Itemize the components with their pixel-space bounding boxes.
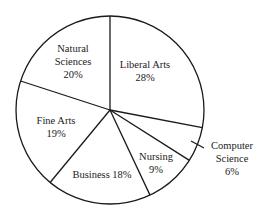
label-computer-science-2: Science <box>216 153 249 164</box>
pie-chart: Liberal Arts 28% Natural Sciences 20% Fi… <box>0 0 259 220</box>
label-natural-sciences-1: Natural <box>57 43 89 54</box>
label-fine-arts: Fine Arts <box>37 115 76 126</box>
label-liberal-arts-pct: 28% <box>135 72 155 83</box>
label-natural-sciences-2: Sciences <box>55 56 92 67</box>
label-liberal-arts: Liberal Arts <box>120 59 170 70</box>
label-computer-science-1: Computer <box>211 140 253 151</box>
label-natural-sciences-pct: 20% <box>63 69 83 80</box>
label-nursing: Nursing <box>139 151 174 162</box>
label-business: Business 18% <box>72 169 131 180</box>
label-fine-arts-pct: 19% <box>46 128 66 139</box>
label-nursing-pct: 9% <box>149 164 163 175</box>
label-computer-science-pct: 6% <box>225 166 239 177</box>
